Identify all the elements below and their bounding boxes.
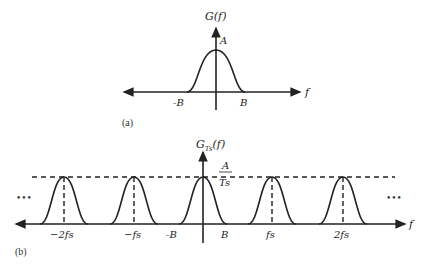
figure-b: GTs(f) A Ts f −2fs −fs -B B fs 2fs ••• •… <box>15 138 415 258</box>
y-label-b: GTs(f) <box>196 138 225 153</box>
spectrum-pulse-neg2fs <box>40 177 88 224</box>
peak-label-a: A <box>219 35 227 46</box>
y-label-a: G(f) <box>205 10 226 23</box>
tick-neg2fs: −2fs <box>50 229 74 240</box>
tick-b: B <box>220 229 228 240</box>
caption-b: (b) <box>15 246 27 258</box>
spectrum-pulse-fs <box>248 177 296 224</box>
tick-b-a: B <box>239 97 247 108</box>
ellipsis-left: ••• <box>16 193 32 203</box>
tick-neg-b-a: -B <box>173 97 184 108</box>
tick-2fs: 2fs <box>333 229 349 240</box>
caption-a: (a) <box>122 117 133 129</box>
peak-label-num: A <box>221 160 229 171</box>
tick-negfs: −fs <box>124 229 141 240</box>
spectrum-diagram: G(f) A f -B B (a) GTs(f) A Ts f −2fs −fs… <box>0 0 428 273</box>
tick-neg-b: -B <box>166 229 177 240</box>
spectrum-pulse-2fs <box>319 177 367 224</box>
figure-a: G(f) A f -B B (a) <box>122 10 311 129</box>
x-label-a: f <box>304 86 311 99</box>
x-label-b: f <box>408 218 415 231</box>
spectrum-pulse-negfs <box>110 177 158 224</box>
peak-label-den: Ts <box>219 177 230 188</box>
tick-fs: fs <box>265 229 275 240</box>
ellipsis-right: ••• <box>386 193 402 203</box>
